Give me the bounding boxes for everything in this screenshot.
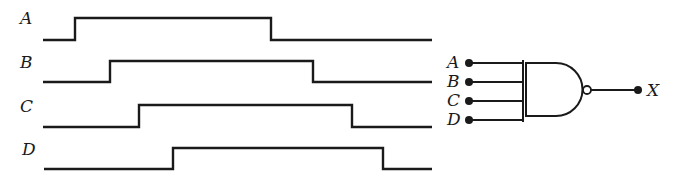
gate-input-label-b: B bbox=[446, 71, 460, 91]
waveform-b: B bbox=[19, 52, 432, 82]
waveform-label-d: D bbox=[21, 139, 36, 159]
waveform-label-b: B bbox=[19, 52, 33, 72]
waveform-label-c: C bbox=[20, 96, 33, 116]
output-terminal-x bbox=[634, 86, 642, 94]
inversion-bubble bbox=[583, 86, 591, 94]
gate-input-label-c: C bbox=[447, 90, 460, 110]
nand-gate: A B C D X bbox=[445, 52, 660, 129]
waveform-d: D bbox=[21, 139, 432, 169]
gate-input-label-d: D bbox=[446, 109, 461, 129]
waveform-c: C bbox=[20, 96, 432, 127]
timing-diagram: A B C D A B C D X bbox=[0, 0, 682, 178]
gate-input-label-a: A bbox=[445, 52, 459, 72]
waveform-label-a: A bbox=[18, 8, 32, 28]
waveform-a: A bbox=[18, 8, 432, 40]
gate-output-label: X bbox=[645, 80, 660, 100]
nand-body bbox=[526, 63, 583, 116]
